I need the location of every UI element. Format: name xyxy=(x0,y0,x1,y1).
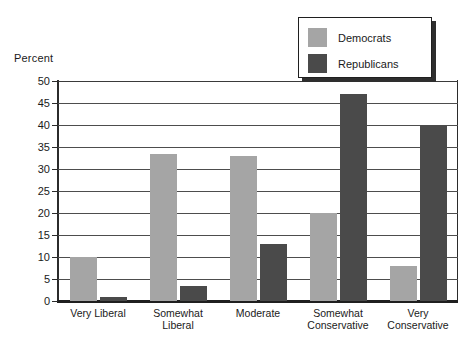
y-tick-label-10: 10 xyxy=(6,252,50,263)
legend-item-republicans: Republicans xyxy=(308,54,399,73)
y-tick-mark-0 xyxy=(52,301,58,302)
gridline-35 xyxy=(58,147,458,148)
gridline-10 xyxy=(58,257,458,258)
gridline-45 xyxy=(58,103,458,104)
y-tick-label-25: 25 xyxy=(6,186,50,197)
legend-swatch-republicans xyxy=(308,54,327,73)
y-tick-label-40: 40 xyxy=(6,120,50,131)
bar-democrats-1 xyxy=(150,154,177,301)
bar-republicans-1 xyxy=(180,286,207,301)
bar-democrats-4 xyxy=(390,266,417,301)
legend-item-democrats: Democrats xyxy=(308,28,391,47)
chart-legend: Democrats Republicans xyxy=(298,17,432,78)
gridline-15 xyxy=(58,235,458,236)
bar-republicans-4 xyxy=(420,125,447,301)
gridline-40 xyxy=(58,125,458,126)
bar-democrats-0 xyxy=(70,257,97,301)
y-tick-label-30: 30 xyxy=(6,164,50,175)
legend-label-democrats: Democrats xyxy=(338,32,391,44)
x-label-4: Very Conservative xyxy=(370,307,466,331)
bar-chart: Percent 05101520253035404550 Very Libera… xyxy=(0,0,468,352)
gridline-50 xyxy=(58,81,458,82)
bar-democrats-3 xyxy=(310,213,337,301)
bar-republicans-3 xyxy=(340,94,367,301)
y-tick-label-50: 50 xyxy=(6,76,50,87)
y-tick-label-45: 45 xyxy=(6,98,50,109)
y-tick-label-15: 15 xyxy=(6,230,50,241)
plot-area xyxy=(58,81,458,301)
gridline-30 xyxy=(58,169,458,170)
bar-republicans-2 xyxy=(260,244,287,301)
y-tick-label-0: 0 xyxy=(6,296,50,307)
y-tick-label-5: 5 xyxy=(6,274,50,285)
y-tick-label-35: 35 xyxy=(6,142,50,153)
legend-label-republicans: Republicans xyxy=(338,58,399,70)
y-tick-label-20: 20 xyxy=(6,208,50,219)
legend-swatch-democrats xyxy=(308,28,327,47)
bar-democrats-2 xyxy=(230,156,257,301)
bar-republicans-0 xyxy=(100,297,127,301)
gridline-25 xyxy=(58,191,458,192)
y-axis-title: Percent xyxy=(14,52,53,64)
gridline-20 xyxy=(58,213,458,214)
